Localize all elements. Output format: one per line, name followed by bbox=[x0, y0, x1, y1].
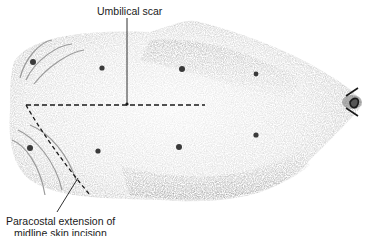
label-umbilical-scar: Umbilical scar bbox=[97, 5, 162, 17]
nipple bbox=[254, 72, 259, 77]
abdomen-body bbox=[10, 21, 362, 201]
anatomical-illustration bbox=[0, 0, 371, 236]
nipple bbox=[95, 148, 100, 153]
label-paracostal-extension: Paracostal extension of bbox=[6, 215, 115, 227]
nipple bbox=[253, 132, 258, 137]
nipple bbox=[179, 66, 185, 72]
nipple bbox=[99, 65, 104, 70]
nipple bbox=[176, 144, 182, 150]
nipple bbox=[27, 145, 33, 151]
umbilical-scar-mark bbox=[125, 102, 128, 105]
label-midline-skin-incision: midline skin incision bbox=[14, 227, 107, 236]
nipple bbox=[30, 59, 36, 65]
